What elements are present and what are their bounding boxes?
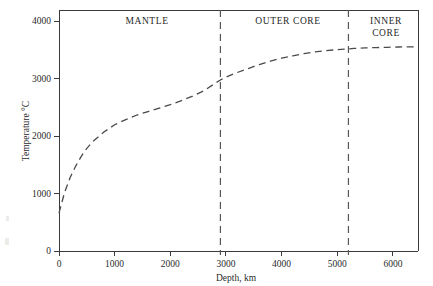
temperature-depth-chart: 0 1000 2000 3000 4000 Temperature °C 0 1… <box>0 0 433 286</box>
region-label-inner-core-line1: INNER <box>370 16 402 26</box>
boundary-lines <box>220 10 348 255</box>
x-tick-label-5000: 5000 <box>328 259 347 269</box>
x-tick-label-6000: 6000 <box>383 259 402 269</box>
x-tick-label-2000: 2000 <box>161 259 180 269</box>
region-label-outer-core: OUTER CORE <box>255 16 320 26</box>
y-axis-ticks <box>54 21 59 251</box>
y-tick-label-0: 0 <box>46 246 51 256</box>
x-tick-label-1000: 1000 <box>105 259 124 269</box>
plot-frame <box>59 10 418 251</box>
geotherm-curve <box>59 47 418 213</box>
x-tick-label-3000: 3000 <box>216 259 235 269</box>
y-tick-label-2000: 2000 <box>32 131 51 141</box>
region-label-inner-core-line2: CORE <box>372 28 400 38</box>
x-axis-title: Depth, km <box>216 273 257 283</box>
figure-container: 0 1000 2000 3000 4000 Temperature °C 0 1… <box>0 0 433 286</box>
region-label-mantle: MANTLE <box>125 16 168 26</box>
y-tick-label-3000: 3000 <box>32 74 51 84</box>
x-tick-label-0: 0 <box>57 259 62 269</box>
y-axis-title: Temperature °C <box>21 101 31 161</box>
y-tick-label-1000: 1000 <box>32 189 51 199</box>
x-tick-label-4000: 4000 <box>272 259 291 269</box>
x-axis-ticks <box>59 251 393 256</box>
y-tick-label-4000: 4000 <box>32 16 51 26</box>
